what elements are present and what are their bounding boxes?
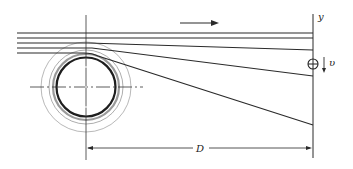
distance-label: D xyxy=(195,143,204,154)
velocity-label: υ xyxy=(329,57,335,68)
dimension-arrow-left-icon xyxy=(87,146,93,150)
down-arrow-icon xyxy=(322,57,326,73)
diagram-canvas: y υ D xyxy=(0,0,353,169)
circled-plus-icon xyxy=(308,59,318,69)
dimension-arrow-right-icon xyxy=(306,146,312,150)
strands xyxy=(17,33,313,125)
right-arrow-icon xyxy=(180,20,219,26)
y-axis-label: y xyxy=(317,11,324,22)
